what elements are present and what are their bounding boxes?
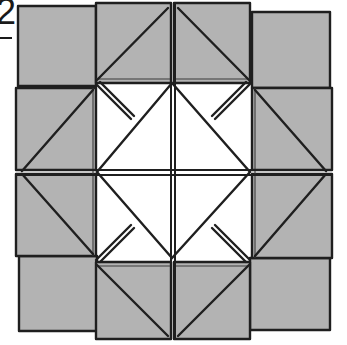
fold-diagram: 2 <box>0 0 347 345</box>
corner-square-bottom-right <box>250 258 330 330</box>
corner-square-top-right <box>252 12 330 88</box>
corner-square-bottom-left <box>19 256 97 331</box>
diagram-canvas <box>0 0 347 345</box>
corner-square-top-left <box>18 6 96 86</box>
